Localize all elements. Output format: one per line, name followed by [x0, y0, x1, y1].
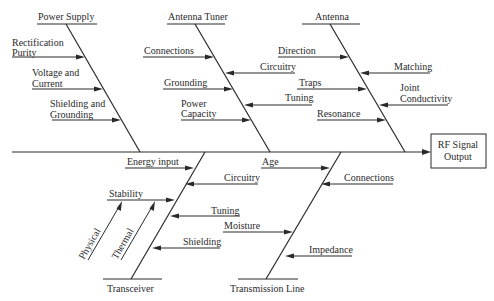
arrowhead	[166, 198, 175, 203]
cause-label: Resonance	[317, 108, 361, 119]
category-label: Antenna	[315, 11, 349, 22]
cause-moisture: Moisture	[223, 220, 293, 235]
category-antenna: Antenna Direction Matching Traps Joint C…	[278, 11, 452, 152]
category-bone	[266, 152, 341, 279]
cause-label: Tuning	[285, 92, 314, 103]
cause-tuning: Tuning	[244, 92, 314, 108]
arrowhead	[152, 246, 161, 251]
cause-direction: Direction	[278, 45, 349, 60]
cause-label: Purity	[12, 47, 36, 58]
arrowhead	[185, 182, 194, 187]
cause-label: Tuning	[211, 205, 240, 216]
arrowhead	[244, 103, 253, 108]
arrowhead	[321, 166, 330, 171]
cause-stability: Stability	[107, 188, 175, 203]
category-bone	[330, 24, 405, 152]
cause-label: Matching	[394, 61, 432, 72]
fishbone-diagram: RF Signal Output Power Supply Rectificat…	[0, 0, 494, 301]
cause-connections: Connections	[143, 45, 214, 60]
cause-label: Conductivity	[400, 93, 452, 104]
arrowhead	[112, 118, 121, 123]
cause-label: Shielding and	[50, 98, 105, 109]
cause-label: Stability	[109, 188, 143, 199]
cause-traps: Traps	[297, 77, 367, 92]
cause-joint-conductivity: Joint Conductivity	[379, 82, 452, 108]
cause-shielding: Shielding	[152, 236, 221, 251]
cause-resonance: Resonance	[317, 108, 386, 123]
cause-label: Moisture	[224, 220, 261, 231]
cause-matching: Matching	[360, 61, 432, 76]
sub-cause-thermal: Thermal	[109, 201, 155, 261]
category-label: Antenna Tuner	[168, 11, 228, 22]
cause-label: Connections	[344, 172, 394, 183]
arrowhead	[285, 254, 294, 259]
cause-circuitry: Circuitry	[225, 61, 296, 76]
arrowhead	[358, 87, 367, 92]
sub-cause-label: Physical	[76, 226, 103, 261]
arrowhead	[94, 87, 103, 92]
cause-label: Impedance	[309, 244, 353, 255]
category-label: Power Supply	[38, 11, 94, 22]
category-label: Transceiver	[107, 283, 155, 294]
arrowhead	[321, 182, 330, 187]
cause-tuning: Tuning	[170, 205, 240, 219]
cause-label: Age	[262, 156, 279, 167]
category-bone	[66, 24, 140, 152]
cause-label: Current	[32, 78, 63, 89]
sub-cause-label: Thermal	[109, 226, 136, 261]
cause-label: Circuitry	[224, 172, 260, 183]
arrowhead	[284, 230, 293, 235]
cause-age: Age	[261, 156, 330, 171]
cause-label: Voltage and	[32, 67, 79, 78]
cause-rectification-purity: Rectification Purity	[12, 37, 85, 60]
cause-label: Grounding	[164, 77, 207, 88]
category-label: Transmission Line	[230, 283, 305, 294]
arrowhead	[185, 166, 194, 171]
arrowhead	[170, 214, 179, 219]
category-bone	[195, 24, 270, 152]
category-antenna-tuner: Antenna Tuner Connections Circuitry Grou…	[143, 11, 314, 152]
cause-label: Traps	[299, 77, 322, 88]
category-power-supply: Power Supply Rectification Purity Voltag…	[12, 11, 140, 152]
effect-label-line2: Output	[444, 151, 472, 162]
cause-label: Joint	[400, 82, 420, 93]
cause-label: Direction	[278, 45, 316, 56]
cause-circuitry: Circuitry	[185, 172, 260, 187]
cause-label: Circuitry	[260, 61, 296, 72]
arrowhead	[379, 103, 388, 108]
arrowhead	[225, 71, 234, 76]
arrowhead	[360, 71, 369, 76]
cause-energy-input: Energy input	[125, 156, 194, 171]
cause-impedance: Impedance	[285, 244, 353, 259]
cause-label: Grounding	[50, 109, 93, 120]
effect-label-line1: RF Signal	[438, 139, 479, 150]
spine-arrowhead	[422, 149, 431, 155]
cause-label: Connections	[144, 45, 194, 56]
cause-label: Energy input	[127, 156, 179, 167]
cause-label: Shielding	[183, 236, 221, 247]
cause-label: Capacity	[181, 108, 217, 119]
cause-grounding: Grounding	[163, 77, 233, 92]
cause-connections: Connections	[321, 172, 394, 187]
